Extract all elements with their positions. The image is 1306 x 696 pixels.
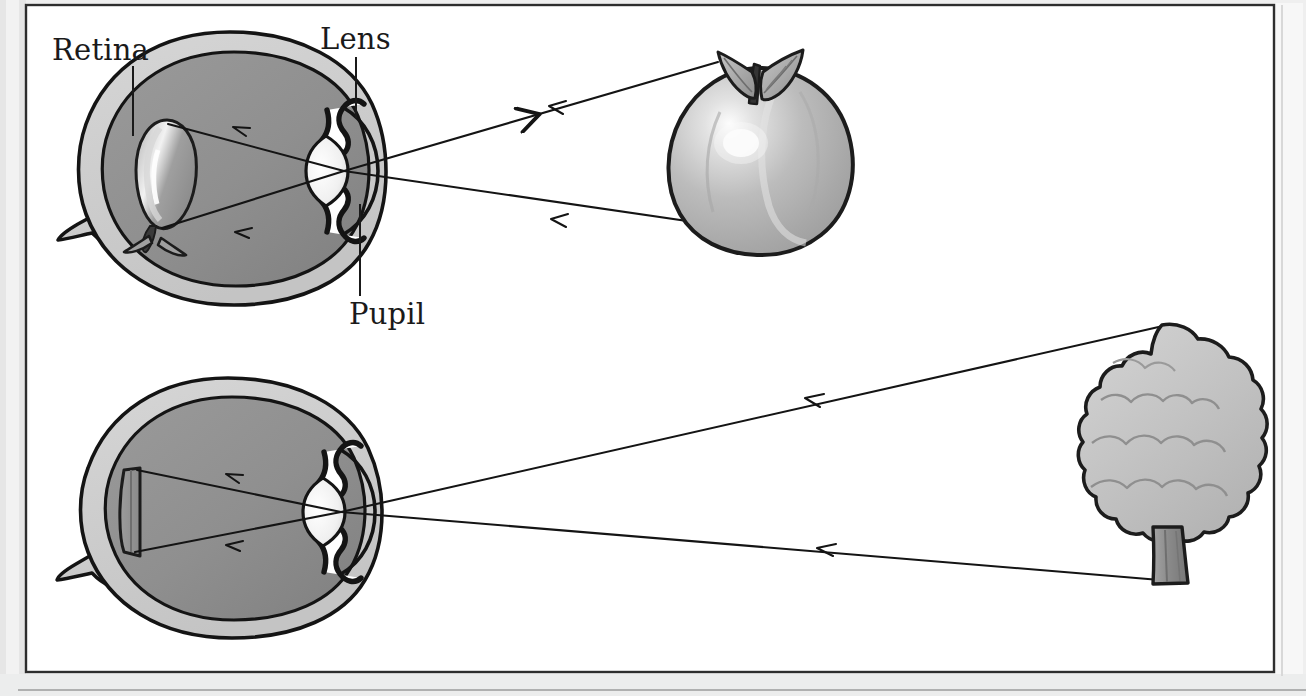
eye-optics-diagram — [0, 0, 1306, 696]
label-retina: Retina — [52, 36, 149, 65]
label-pupil: Pupil — [349, 300, 425, 329]
label-lens: Lens — [320, 25, 391, 54]
retina-image-tree — [120, 468, 140, 556]
figure-page: Retina Lens Pupil — [0, 0, 1306, 696]
tree-trunk — [1153, 527, 1188, 584]
